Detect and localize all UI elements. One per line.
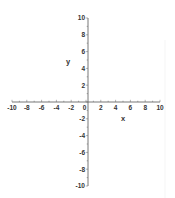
x-tick-label: -10 bbox=[7, 104, 17, 111]
y-tick-label: 2 bbox=[81, 82, 85, 89]
x-tick-label: 2 bbox=[99, 104, 103, 111]
x-tick-label: 4 bbox=[114, 104, 118, 111]
y-axis-label: y bbox=[66, 57, 71, 66]
x-tick-label: -2 bbox=[68, 104, 74, 111]
x-axis-label: x bbox=[121, 114, 126, 123]
y-minor-ticks bbox=[86, 18, 88, 186]
x-tick-labels: -10-8-6-4-20246810 bbox=[7, 104, 164, 111]
x-tick-label: -4 bbox=[54, 104, 60, 111]
x-tick-label: -8 bbox=[24, 104, 30, 111]
x-tick-label: 8 bbox=[143, 104, 147, 111]
y-tick-label: -8 bbox=[79, 166, 85, 173]
x-tick-label: 0 bbox=[83, 104, 87, 111]
x-tick-label: 6 bbox=[129, 104, 133, 111]
y-tick-label: 4 bbox=[81, 65, 85, 72]
x-minor-ticks bbox=[12, 100, 160, 102]
x-tick-label: -6 bbox=[39, 104, 45, 111]
y-tick-label: -10 bbox=[76, 182, 86, 189]
x-tick-label: 10 bbox=[156, 104, 164, 111]
coordinate-plane: -10-8-6-4-20246810 -10-8-6-4-2246810 x y bbox=[0, 0, 175, 198]
y-tick-label: 6 bbox=[81, 48, 85, 55]
y-tick-label: -6 bbox=[79, 149, 85, 156]
y-tick-label: -4 bbox=[79, 132, 85, 139]
y-tick-label: 10 bbox=[78, 14, 86, 21]
y-tick-label: 8 bbox=[81, 31, 85, 38]
y-tick-label: -2 bbox=[79, 115, 85, 122]
